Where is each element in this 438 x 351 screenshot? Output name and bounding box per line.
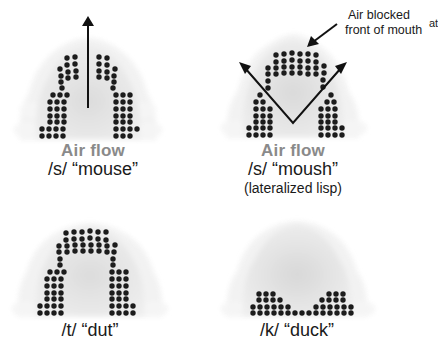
palatogram-s-mouse: Air flow /s/ “mouse” bbox=[0, 0, 180, 175]
airflow-label: Air flow bbox=[58, 141, 128, 161]
annotation-line2: front of mouth bbox=[345, 23, 422, 37]
annotation-superscript: at bbox=[429, 16, 438, 31]
annotation-line1: Air blocked bbox=[345, 8, 422, 23]
phoneme-label: /k/ “duck” bbox=[242, 320, 352, 341]
palatogram-t-dut: /t/ “dut” bbox=[0, 205, 180, 351]
airflow-label: Air flow bbox=[258, 141, 328, 161]
palatogram-k-duck: /k/ “duck” bbox=[215, 205, 435, 351]
phoneme-label: /s/ “moush” bbox=[233, 159, 353, 180]
phoneme-label: /s/ “mouse” bbox=[38, 159, 148, 180]
annotation-air-blocked: Air blocked front of mouthat bbox=[345, 8, 422, 38]
sublabel-lateralized-lisp: (lateralized lisp) bbox=[225, 180, 361, 196]
phoneme-label: /t/ “dut” bbox=[40, 320, 140, 341]
blocked-air-arrow bbox=[307, 24, 337, 47]
palatogram-s-moush: Air blocked front of mouthat Air flow /s… bbox=[215, 0, 435, 205]
